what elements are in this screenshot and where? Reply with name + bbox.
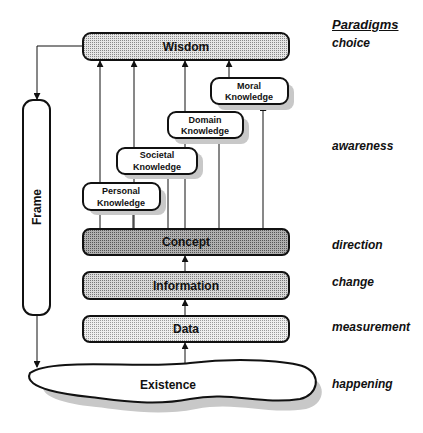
frame-box: Frame [23,100,50,315]
moral-knowledge-line1: Moral [237,81,261,91]
diagram-canvas: Wisdom Frame Moral Knowledge Domain Know… [0,0,423,433]
societal-knowledge-box: Societal Knowledge [117,148,203,179]
societal-knowledge-line1: Societal [140,150,175,160]
paradigm-measurement: measurement [332,320,410,334]
wisdom-box: Wisdom [83,33,289,60]
paradigm-change: change [332,275,374,289]
data-label: Data [173,322,199,336]
moral-knowledge-box: Moral Knowledge [211,78,294,110]
wisdom-label: Wisdom [163,40,210,54]
concept-box: Concept [83,229,289,255]
domain-knowledge-box: Domain Knowledge [168,112,249,144]
frame-label: Frame [30,189,44,225]
paradigm-happening: happening [332,377,393,391]
personal-knowledge-line1: Personal [102,186,140,196]
information-label: Information [153,279,219,293]
data-box: Data [83,316,289,342]
societal-knowledge-line2: Knowledge [133,162,181,172]
arrow-wisdom-to-frame [37,46,83,99]
paradigm-awareness: awareness [332,139,393,153]
paradigms-heading: Paradigms [332,17,398,32]
paradigm-choice: choice [332,36,370,50]
domain-knowledge-line1: Domain [188,115,221,125]
information-box: Information [83,272,289,299]
concept-label: Concept [162,235,210,249]
existence-label: Existence [140,378,196,392]
moral-knowledge-line2: Knowledge [225,92,273,102]
domain-knowledge-line2: Knowledge [181,126,229,136]
existence-blob: Existence [29,360,322,412]
paradigm-direction: direction [332,238,383,252]
personal-knowledge-line2: Knowledge [97,198,145,208]
personal-knowledge-box: Personal Knowledge [83,183,166,215]
